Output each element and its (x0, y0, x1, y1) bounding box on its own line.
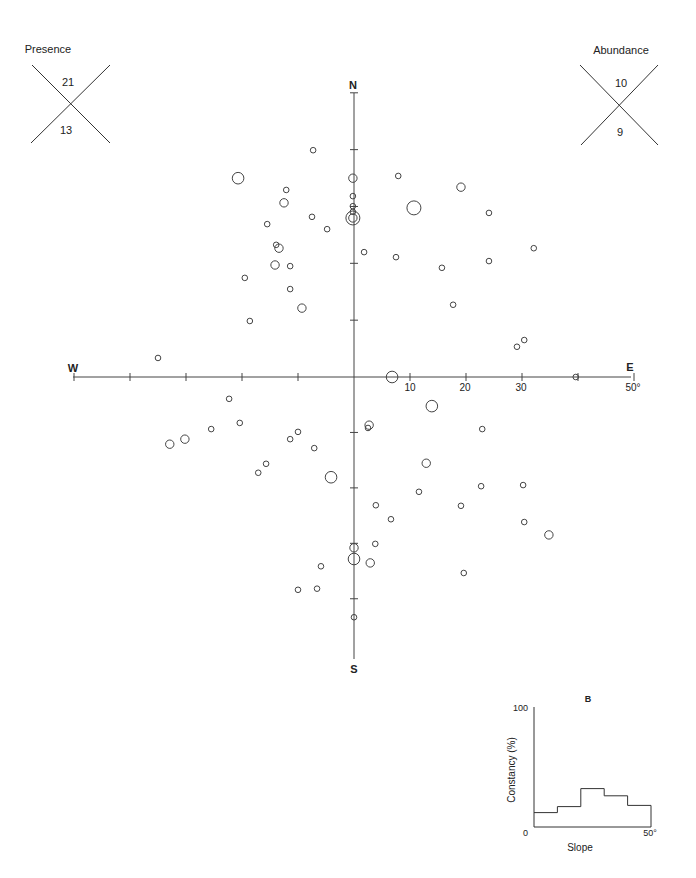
data-point-circle (263, 461, 269, 467)
data-point-circle (287, 436, 293, 442)
data-point-circle (298, 304, 306, 312)
chart-canvas: Presence 21 13 Abundance 10 9 N S E W 10… (0, 0, 696, 878)
data-point-circle (310, 147, 316, 153)
data-point-circle (426, 400, 438, 412)
data-point-circle (407, 201, 421, 215)
histogram-x-max-label: 50° (643, 828, 657, 838)
data-point-circle (366, 559, 374, 567)
histogram-y-min-label: 0 (523, 828, 528, 838)
abundance-top-value: 10 (615, 77, 627, 89)
data-point-circle (373, 502, 379, 508)
x-tick-label-20: 20 (459, 382, 471, 393)
data-point-circle (166, 440, 174, 448)
x-tick-label-10: 10 (404, 382, 416, 393)
data-point-circle (422, 459, 430, 467)
abundance-legend: Abundance 10 9 (580, 44, 658, 145)
data-point-circle (450, 302, 456, 308)
data-point-circle (365, 425, 371, 431)
data-point-circle (350, 544, 358, 552)
data-point-circle (350, 203, 356, 209)
south-label: S (350, 663, 357, 675)
data-point-circle (325, 471, 337, 483)
histogram-title: B (585, 694, 592, 704)
data-point-circle (416, 489, 422, 495)
presence-bottom-value: 13 (60, 124, 72, 136)
constancy-histogram: B 100 0 50° Slope Constancy (%) (506, 694, 657, 853)
data-point-circle (350, 193, 356, 199)
data-point-circle (314, 586, 320, 592)
data-point-circle (324, 226, 330, 232)
data-point-circle (208, 426, 214, 432)
data-point-circle (457, 183, 465, 191)
data-point-circle (237, 420, 243, 426)
abundance-title: Abundance (593, 44, 649, 56)
data-point-circle (486, 210, 492, 216)
x-tick-label-50: 50° (625, 382, 640, 393)
histogram-y-max-label: 100 (513, 703, 528, 713)
west-label: W (68, 362, 79, 374)
data-point-circle (478, 483, 484, 489)
data-point-circle (155, 355, 161, 361)
histogram-steps (534, 789, 651, 827)
data-point-circle (349, 174, 357, 182)
east-label: E (626, 361, 633, 373)
presence-top-value: 21 (62, 76, 74, 88)
data-point-circle (264, 221, 270, 227)
data-point-circle (247, 318, 253, 324)
data-point-circle (372, 541, 378, 547)
data-point-circle (514, 344, 520, 350)
data-point-circle (521, 337, 527, 343)
data-point-circle (388, 516, 394, 522)
data-point-circle (283, 187, 289, 193)
data-point-circle (461, 570, 467, 576)
data-point-circle (479, 426, 485, 432)
data-point-circle (361, 249, 367, 255)
data-point-circle (393, 254, 399, 260)
data-point-circle (318, 563, 324, 569)
data-point-circle (573, 374, 579, 380)
data-point-circle (287, 286, 293, 292)
data-point-circle (226, 396, 232, 402)
data-point-circle (521, 519, 527, 525)
abundance-bottom-value: 9 (617, 126, 623, 138)
data-point-circle (295, 587, 301, 593)
data-point-circle (395, 173, 401, 179)
data-point-circle (531, 245, 537, 251)
data-point-circle (232, 172, 244, 184)
compass-axes: N S E W 10 20 30 50° (68, 79, 641, 675)
data-point-circle (486, 258, 492, 264)
data-point-circle (346, 211, 360, 225)
data-point-circle (348, 553, 360, 565)
histogram-x-label: Slope (567, 842, 593, 853)
data-point-circle (242, 275, 248, 281)
data-point-circle (275, 244, 283, 252)
x-tick-label-30: 30 (515, 382, 527, 393)
data-point-circle (520, 482, 526, 488)
data-point-circle (287, 263, 293, 269)
data-point-circle (311, 445, 317, 451)
data-point-circle (271, 261, 279, 269)
presence-title: Presence (25, 43, 71, 55)
data-point-circle (439, 265, 445, 271)
north-label: N (349, 79, 357, 91)
presence-legend: Presence 21 13 (25, 43, 110, 143)
data-point-circle (309, 214, 315, 220)
data-point-circle (545, 531, 553, 539)
data-point-circle (255, 470, 261, 476)
data-point-circle (386, 371, 398, 383)
data-point-circle (458, 503, 464, 509)
data-point-circle (181, 435, 189, 443)
data-point-circle (351, 614, 357, 620)
data-point-circle (295, 429, 301, 435)
histogram-y-label: Constancy (%) (506, 737, 517, 803)
data-point-circle (280, 199, 288, 207)
